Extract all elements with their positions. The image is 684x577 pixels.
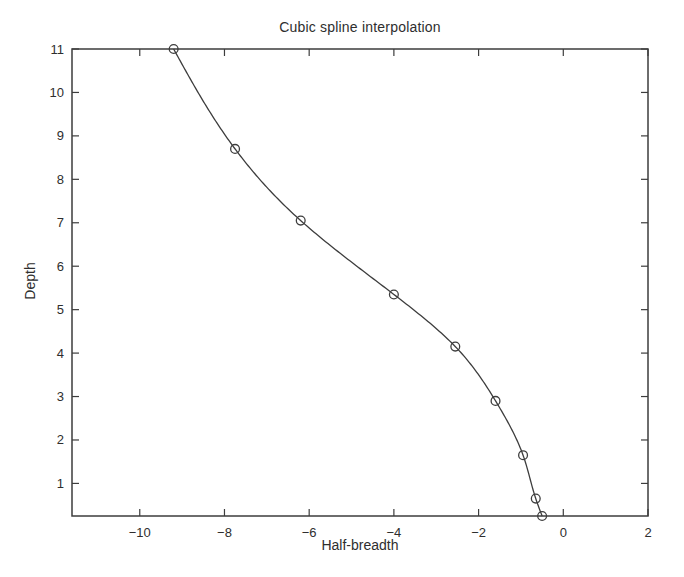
y-tick-label: 6 [57,259,64,274]
y-tick-label: 11 [51,42,65,57]
x-axis-label: Half-breadth [72,537,648,553]
y-tick-label: 3 [57,389,64,404]
y-tick-label: 1 [57,476,64,491]
y-tick-label: 2 [57,432,64,447]
y-tick-label: 7 [57,215,64,230]
y-tick-label: 5 [57,302,64,317]
figure-canvas: Cubic spline interpolation Depth −10−8−6… [0,0,684,577]
y-tick-label: 10 [50,85,64,100]
y-tick-label: 9 [57,128,64,143]
plot-area: −10−8−6−4−2021234567891011 [0,0,684,577]
y-tick-label: 8 [57,172,64,187]
y-tick-label: 4 [57,346,64,361]
axis-box [72,49,648,516]
spline-curve [174,49,542,516]
